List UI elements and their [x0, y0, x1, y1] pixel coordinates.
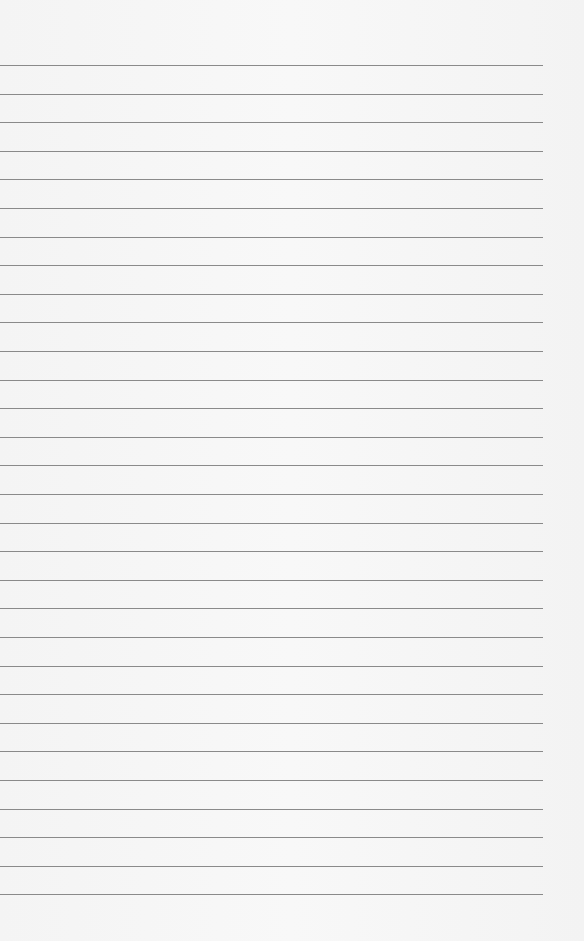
ruled-line	[0, 94, 543, 95]
ruled-line	[0, 551, 543, 552]
ruled-line	[0, 294, 543, 295]
ruled-line	[0, 237, 543, 238]
ruled-line	[0, 608, 543, 609]
ruled-line	[0, 322, 543, 323]
ruled-line	[0, 580, 543, 581]
ruled-line	[0, 494, 543, 495]
ruled-line	[0, 723, 543, 724]
ruled-line	[0, 208, 543, 209]
ruled-line	[0, 408, 543, 409]
ruled-line	[0, 122, 543, 123]
lined-paper-sheet	[0, 0, 584, 941]
ruled-line	[0, 751, 543, 752]
ruled-line	[0, 666, 543, 667]
ruled-line	[0, 694, 543, 695]
ruled-line	[0, 894, 543, 895]
ruled-line	[0, 837, 543, 838]
ruled-line	[0, 866, 543, 867]
ruled-line	[0, 380, 543, 381]
ruled-line	[0, 151, 543, 152]
ruled-line	[0, 179, 543, 180]
ruled-line	[0, 65, 543, 66]
ruled-line	[0, 780, 543, 781]
ruled-line	[0, 465, 543, 466]
ruled-line	[0, 265, 543, 266]
ruled-line	[0, 437, 543, 438]
ruled-line	[0, 637, 543, 638]
ruled-line	[0, 809, 543, 810]
ruled-line	[0, 351, 543, 352]
ruled-line	[0, 523, 543, 524]
